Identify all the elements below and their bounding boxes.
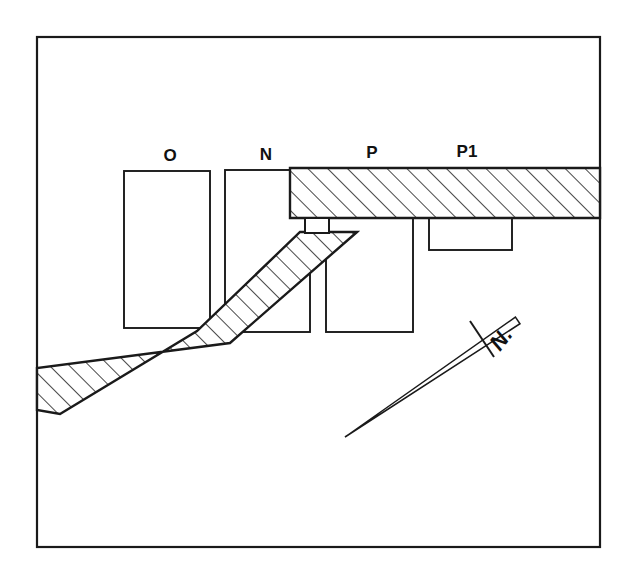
parcel-label-O: O: [163, 146, 176, 165]
rect-O: [124, 171, 210, 328]
connector-stub: [305, 218, 329, 233]
parcel-label-P: P: [366, 143, 377, 162]
parcel-label-P1: P1: [457, 142, 478, 161]
technical-drawing: N. ONPP1: [0, 0, 633, 576]
parcel-label-N: N: [260, 145, 272, 164]
band-connector-stub: [305, 218, 329, 233]
drawing-background: [0, 0, 633, 576]
figure-canvas: N. ONPP1: [0, 0, 633, 576]
rect-P1: [429, 218, 512, 250]
